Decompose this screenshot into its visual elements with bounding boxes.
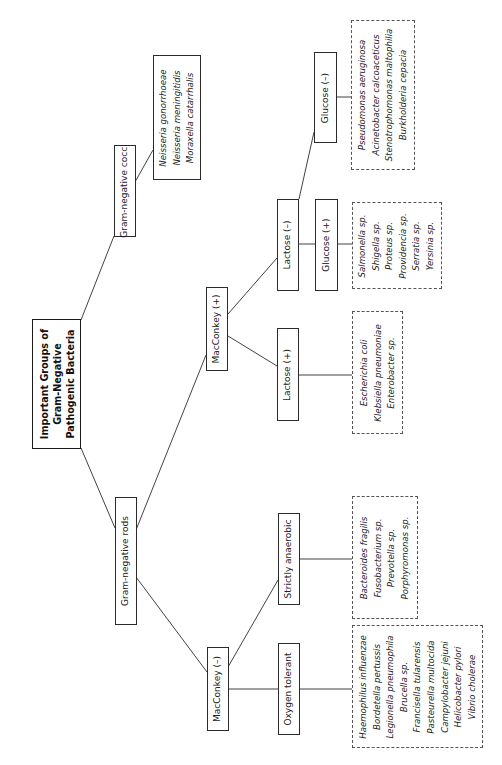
title-line-3: Pathogenic Bacteria <box>63 329 76 439</box>
edge-lactose-glucose-negative <box>299 132 314 199</box>
label-glucose-positive: Glucose (+) <box>321 218 333 271</box>
species-item: Shigella sp. <box>370 213 384 278</box>
species-item: Yersinia sp. <box>424 213 438 278</box>
species-list-glucose-negative: Pseudomonas aeruginosa Acinetobacter cal… <box>356 29 410 162</box>
title-line-1: Important Groups of <box>37 329 50 439</box>
species-item: Escherichia coli <box>357 324 371 421</box>
species-box-anaerobic: Bacteroides fragilis Fusobacterium sp. P… <box>352 496 418 619</box>
node-macconkey-negative: MacConkey (–) <box>207 647 229 731</box>
species-item: Haemophilus influenzae <box>356 635 370 739</box>
species-item: Serratia sp. <box>411 213 425 278</box>
species-item: Neisseria meningitidis <box>170 69 184 166</box>
species-box-oxygen-tolerant: Haemophilus influenzae Bordetella pertus… <box>352 625 483 748</box>
label-lactose-negative: Lactose (–) <box>282 220 294 269</box>
label-glucose-negative: Glucose (–) <box>320 72 332 122</box>
title-line-2: Gram-Negative <box>50 329 63 439</box>
edge-rods-macconkey-negative <box>136 577 207 672</box>
species-list-anaerobic: Bacteroides fragilis Fusobacterium sp. P… <box>358 516 412 599</box>
species-item: Salmonella sp. <box>356 213 370 278</box>
species-item: Legionella pneumophila <box>384 635 398 739</box>
species-item: Helicobacter pylori <box>451 635 465 739</box>
node-gram-negative-rods: Gram-negative rods <box>115 497 137 625</box>
species-item: Bacteroides fragilis <box>358 516 372 599</box>
edge-root-rods <box>81 448 115 528</box>
species-list-lactose-positive: Escherichia coli Klebsiella pneumoniae E… <box>357 324 398 421</box>
species-item: Providencia sp. <box>397 213 411 278</box>
root-title-box: Important Groups of Gram-Negative Pathog… <box>32 319 81 449</box>
label-oxygen-tolerant: Oxygen tolerant <box>283 652 295 725</box>
species-item: Proteus sp. <box>383 213 397 278</box>
bacteria-classification-diagram: Important Groups of Gram-Negative Pathog… <box>0 0 502 765</box>
species-item: Campylobacter jejuni <box>438 635 452 739</box>
species-item: Burkholderia cepacia <box>397 29 411 162</box>
node-gram-negative-cocci: Gram-negative cocci <box>114 145 136 237</box>
edge-macconkey-lactose-negative <box>228 258 277 314</box>
species-item: Francisella tularensis <box>411 635 425 739</box>
species-item: Brucella sp. <box>397 635 411 739</box>
species-item: Pasteurella multocida <box>424 635 438 739</box>
species-list-cocci: Neisseria gonorrhoeae Neisseria meningit… <box>157 69 198 166</box>
label-gram-negative-cocci: Gram-negative cocci <box>119 144 131 237</box>
edge-root-cocci <box>81 236 114 320</box>
species-box-lactose-positive: Escherichia coli Klebsiella pneumoniae E… <box>352 311 403 434</box>
edge-rods-macconkey-positive <box>136 355 206 530</box>
node-strictly-anaerobic: Strictly anaerobic <box>278 513 300 605</box>
species-item: Klebsiella pneumoniae <box>371 324 385 421</box>
label-strictly-anaerobic: Strictly anaerobic <box>283 519 295 598</box>
species-box-glucose-positive: Salmonella sp. Shigella sp. Proteus sp. … <box>352 202 442 289</box>
species-item: Acinetobacter calcoaceticus <box>369 29 383 162</box>
species-item: Porphyromonas sp. <box>399 516 413 599</box>
species-item: Vibrio cholerae <box>465 635 479 739</box>
label-macconkey-positive: MacConkey (+) <box>211 295 223 364</box>
label-lactose-positive: Lactose (+) <box>282 348 294 400</box>
species-box-glucose-negative: Pseudomonas aeruginosa Acinetobacter cal… <box>351 20 415 170</box>
species-list-glucose-positive: Salmonella sp. Shigella sp. Proteus sp. … <box>356 213 438 278</box>
edge-macconkey-anaerobic <box>228 580 278 667</box>
species-item: Bordetella pertussis <box>370 635 384 739</box>
edge-cocci-species <box>135 150 153 182</box>
species-item: Moraxella catarrhalis <box>184 69 198 166</box>
node-lactose-negative: Lactose (–) <box>277 199 299 291</box>
node-macconkey-positive: MacConkey (+) <box>206 287 228 371</box>
species-item: Pseudomonas aeruginosa <box>356 29 370 162</box>
diagram-title: Important Groups of Gram-Negative Pathog… <box>37 329 76 439</box>
species-box-cocci: Neisseria gonorrhoeae Neisseria meningit… <box>153 55 201 180</box>
label-macconkey-negative: MacConkey (–) <box>212 656 224 722</box>
node-glucose-positive: Glucose (+) <box>315 199 338 291</box>
species-item: Neisseria gonorrhoeae <box>157 69 171 166</box>
node-oxygen-tolerant: Oxygen tolerant <box>278 643 300 735</box>
node-lactose-positive: Lactose (+) <box>277 328 299 421</box>
label-gram-negative-rods: Gram-negative rods <box>120 516 132 606</box>
node-glucose-negative: Glucose (–) <box>314 52 337 143</box>
species-item: Stenotrophomonas maltophilia <box>383 29 397 162</box>
species-list-oxygen-tolerant: Haemophilus influenzae Bordetella pertus… <box>356 635 478 739</box>
species-item: Prevotella sp. <box>385 516 399 599</box>
species-item: Fusobacterium sp. <box>371 516 385 599</box>
species-item: Enterobacter sp. <box>384 324 398 421</box>
edge-macconkey-lactose-positive <box>228 336 277 366</box>
